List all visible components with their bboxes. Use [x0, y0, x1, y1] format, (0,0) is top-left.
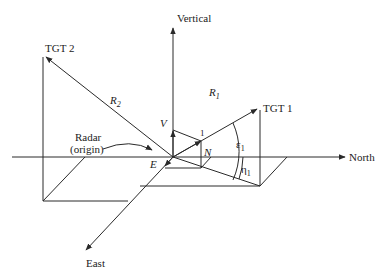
unit-marker-label: 1 — [200, 128, 205, 138]
e-component-arrow — [165, 157, 173, 166]
radar-label: Radar — [75, 131, 102, 143]
tgt2-label: TGT 2 — [45, 42, 74, 54]
tgt2-ground-north — [43, 157, 85, 201]
origin-label: (origin) — [70, 143, 104, 156]
east-axis — [86, 157, 173, 250]
r2-label: R2 — [109, 94, 121, 109]
vertical-axis-label: Vertical — [177, 12, 211, 24]
north-axis-label: North — [349, 151, 375, 163]
origin-pointer-arrow — [103, 144, 152, 150]
unit-north-link — [201, 157, 211, 168]
elevation-angle-arc — [233, 123, 239, 180]
radar-geometry-diagram: North Vertical East TGT 2 R2 Radar (orig… — [0, 0, 386, 273]
unit-v-link — [173, 130, 201, 141]
n-component-label: N — [203, 146, 212, 158]
v-component-label: V — [160, 117, 168, 129]
r2-vector — [46, 57, 173, 157]
elevation-angle-label: ε1 — [236, 138, 245, 153]
unit-vector — [173, 141, 201, 157]
r1-label: R1 — [208, 86, 220, 101]
tgt1-ground-north — [260, 157, 287, 186]
azimuth-angle-label: η1 — [241, 163, 251, 178]
tgt1-label: TGT 1 — [263, 102, 292, 114]
east-axis-label: East — [86, 257, 105, 269]
e-component-label: E — [149, 158, 157, 170]
